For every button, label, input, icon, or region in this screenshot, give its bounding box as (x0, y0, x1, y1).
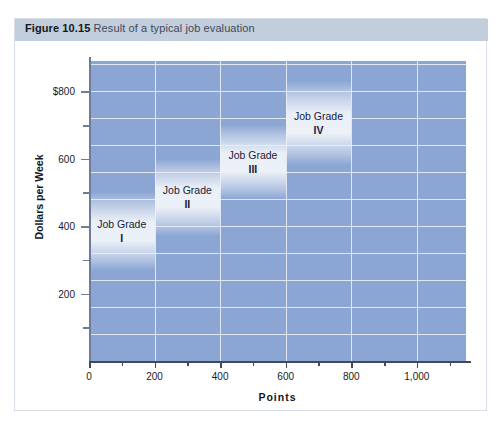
grade-band-i: Job GradeI (89, 192, 155, 270)
y-tick-label: $800 (53, 86, 75, 97)
x-tick-minor (253, 361, 255, 366)
figure-caption-text: Result of a typical job evaluation (94, 22, 255, 34)
gridline-horizontal (89, 334, 466, 335)
y-tick-major (81, 159, 90, 161)
grade-band-numeral: IV (314, 124, 324, 137)
y-tick-minor (83, 192, 90, 194)
chart-container: Job GradeIJob GradeIIJob GradeIIIJob Gra… (15, 41, 488, 412)
y-tick-label: 200 (58, 288, 75, 299)
grade-band-label: Job Grade (294, 110, 343, 123)
y-tick-major (81, 91, 90, 93)
figure-number: Figure 10.15 (25, 22, 90, 34)
grade-band-numeral: III (249, 163, 258, 176)
gridline-horizontal (89, 64, 466, 65)
grade-band-iii: Job GradeIII (220, 125, 286, 199)
grade-band-numeral: I (120, 232, 123, 245)
x-tick-label: 0 (86, 371, 92, 382)
y-axis-line (89, 57, 91, 362)
x-tick-major (351, 361, 353, 368)
grade-band-numeral: II (184, 198, 190, 211)
x-tick-minor (384, 361, 386, 366)
x-tick-major (286, 361, 288, 368)
gridline-horizontal (89, 118, 466, 119)
gridline-horizontal (89, 280, 466, 281)
x-tick-minor (318, 361, 320, 366)
x-tick-major (220, 361, 222, 368)
gridline-vertical (417, 61, 418, 361)
y-tick-major (81, 226, 90, 228)
x-axis-line (89, 361, 471, 363)
grade-band-iv: Job GradeIV (286, 81, 352, 165)
x-tick-label: 400 (212, 371, 229, 382)
gridline-horizontal (89, 91, 466, 92)
plot-area: Job GradeIJob GradeIIJob GradeIIIJob Gra… (89, 61, 466, 361)
y-tick-major (81, 294, 90, 296)
gridline-horizontal (89, 307, 466, 308)
grade-band-ii: Job GradeII (155, 159, 221, 237)
figure-caption: Figure 10.15 Result of a typical job eva… (25, 22, 255, 34)
x-tick-major (155, 361, 157, 368)
x-tick-minor (450, 361, 452, 366)
y-tick-label: 600 (58, 153, 75, 164)
grade-band-label: Job Grade (97, 218, 146, 231)
y-tick-minor (83, 327, 90, 329)
x-tick-major (417, 361, 419, 368)
gridline-vertical (351, 61, 352, 361)
y-axis-title: Dollars per Week (33, 132, 45, 262)
x-tick-major (89, 361, 91, 368)
x-tick-minor (122, 361, 124, 366)
gridline-vertical (220, 61, 221, 361)
grade-band-label: Job Grade (163, 184, 212, 197)
grade-band-label: Job Grade (228, 149, 277, 162)
y-tick-minor (83, 125, 90, 127)
x-tick-label: 200 (146, 371, 163, 382)
figure-header-bar: Figure 10.15 Result of a typical job eva… (15, 19, 488, 41)
x-tick-label: 600 (277, 371, 294, 382)
x-tick-label: 1,000 (404, 371, 429, 382)
x-tick-label: 800 (343, 371, 360, 382)
figure-card: Figure 10.15 Result of a typical job eva… (14, 18, 487, 411)
x-axis-title: Points (89, 391, 466, 403)
y-tick-label: 400 (58, 221, 75, 232)
x-tick-minor (187, 361, 189, 366)
y-tick-minor (83, 260, 90, 262)
